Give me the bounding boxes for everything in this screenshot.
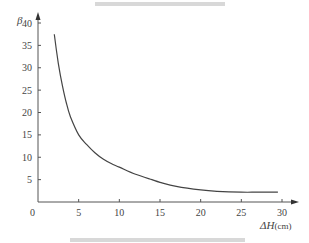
faint-caption-text (70, 238, 245, 242)
x-tick-label: 30 (277, 207, 287, 218)
y-tick-label: 15 (22, 129, 32, 140)
x-axis-arrow-icon (291, 200, 299, 205)
chart: 510152025303540 51015202530 β 0 ΔH(cm) (0, 0, 309, 243)
y-axis-label: β (16, 14, 23, 26)
x-axis-label: ΔH(cm) (259, 219, 291, 231)
y-axis (36, 12, 41, 202)
x-axis (38, 200, 299, 205)
x-tick-label: 5 (76, 207, 81, 218)
faint-header-text (95, 2, 225, 6)
x-tick-label: 20 (196, 207, 206, 218)
y-tick-label: 25 (22, 85, 32, 96)
y-axis-arrow-icon (36, 12, 41, 20)
y-tick-label: 40 (22, 18, 32, 29)
y-tick-label: 10 (22, 152, 32, 163)
y-tick-label: 35 (22, 40, 32, 51)
x-tick-label: 15 (155, 207, 165, 218)
x-axis-label-var: ΔH (259, 219, 275, 231)
data-curve (54, 34, 278, 192)
y-tick-label: 20 (22, 107, 32, 118)
x-tick-label: 10 (114, 207, 124, 218)
y-tick-label: 30 (22, 62, 32, 73)
y-tick-label: 5 (27, 174, 32, 185)
x-axis-label-unit: (cm) (274, 221, 291, 231)
origin-label: 0 (30, 207, 35, 218)
x-tick-label: 25 (236, 207, 246, 218)
